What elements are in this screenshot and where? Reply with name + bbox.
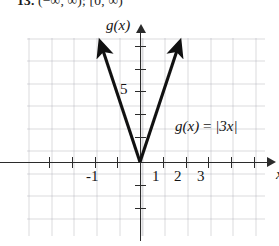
x-axis-label: x bbox=[276, 166, 279, 183]
answer-text: (−∞, ∞); [0, ∞) bbox=[38, 0, 123, 8]
curve-left-branch bbox=[103, 49, 141, 162]
curve-right-branch bbox=[140, 49, 178, 162]
answer-number: 13. bbox=[17, 0, 34, 8]
answer-key-figure-panel: 13. (−∞, ∞); [0, ∞) -1 1 2 3 5 bbox=[0, 0, 279, 246]
graph-figure: -1 1 2 3 5 g(x) x g(x) = |3x| bbox=[27, 26, 267, 241]
x-axis-arrow-icon bbox=[267, 157, 276, 167]
answer-line: 13. (−∞, ∞); [0, ∞) bbox=[17, 0, 123, 9]
function-curve bbox=[27, 26, 267, 241]
